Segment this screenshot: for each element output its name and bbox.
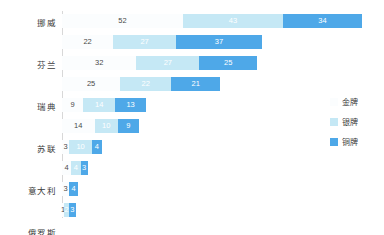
bar-segments: 524334 <box>62 14 362 28</box>
bar-row[interactable]: 瑞典322725 <box>62 56 257 70</box>
bar-segment-silver[interactable]: 27 <box>136 56 199 70</box>
bar-segment-silver[interactable]: 10 <box>69 140 92 154</box>
legend-item[interactable]: 金牌 <box>330 96 384 107</box>
bar-segments: 322725 <box>62 56 257 70</box>
bar-value-label: 3 <box>63 185 67 193</box>
bar-row[interactable]: 芬兰222737 <box>62 35 262 49</box>
bar-value-label: 43 <box>229 17 237 25</box>
bar-segments: 252221 <box>62 77 220 91</box>
medal-count-stacked-bar-chart: 挪威524334芬兰222737瑞典322725苏联252221意大利91413… <box>0 0 384 235</box>
bar-value-label: 9 <box>70 101 74 109</box>
bar-segment-gold[interactable]: 3 <box>62 182 69 196</box>
bar-segment-gold[interactable]: 25 <box>62 77 120 91</box>
chart-legend: 金牌银牌铜牌 <box>330 96 384 156</box>
bar-value-label: 3 <box>63 143 67 151</box>
legend-swatch-icon <box>330 138 338 146</box>
category-label: 苏联 <box>0 142 56 156</box>
bar-segment-silver[interactable]: 4 <box>71 161 80 175</box>
category-label: 挪威 <box>0 16 56 30</box>
bar-segment-bronze[interactable]: 25 <box>199 56 257 70</box>
legend-item[interactable]: 银牌 <box>330 116 384 127</box>
bar-value-label: 4 <box>74 164 78 172</box>
bar-row[interactable]: ROC443 <box>62 161 88 175</box>
bar-segment-bronze[interactable]: 37 <box>176 35 262 49</box>
bar-segments: 91413 <box>62 98 146 112</box>
bar-value-label: 22 <box>142 80 150 88</box>
bar-value-label: 4 <box>95 143 99 151</box>
bar-value-label: 3 <box>82 164 86 172</box>
bar-segments: 14109 <box>62 119 139 133</box>
bar-value-label: 3 <box>70 206 74 214</box>
bar-segment-gold[interactable]: 9 <box>62 98 83 112</box>
bar-value-label: 32 <box>95 59 103 67</box>
bar-row[interactable]: 苏联252221 <box>62 77 220 91</box>
bar-segment-bronze[interactable]: 13 <box>115 98 145 112</box>
bar-row[interactable]: 独联体34 <box>62 182 78 196</box>
bar-value-label: 9 <box>126 122 130 130</box>
bar-segment-bronze[interactable]: 21 <box>171 77 220 91</box>
bar-value-label: 34 <box>318 17 326 25</box>
category-label: 意大利 <box>0 184 56 198</box>
bar-value-label: 27 <box>164 59 172 67</box>
bar-row[interactable]: 挪威524334 <box>62 14 362 28</box>
bar-row[interactable]: 俄罗斯14109 <box>62 119 139 133</box>
bar-segment-silver[interactable]: 22 <box>120 77 171 91</box>
bar-value-label: 14 <box>95 101 103 109</box>
bar-segment-bronze[interactable]: 3 <box>81 161 88 175</box>
bar-value-label: 22 <box>83 38 91 46</box>
legend-swatch-icon <box>330 98 338 106</box>
bar-segment-bronze[interactable]: 4 <box>92 140 101 154</box>
bar-segment-gold[interactable]: 4 <box>62 161 71 175</box>
bar-segment-bronze[interactable]: 4 <box>69 182 78 196</box>
bar-value-label: 21 <box>192 80 200 88</box>
bar-segment-gold[interactable]: 22 <box>62 35 113 49</box>
bar-segment-silver[interactable]: 27 <box>113 35 176 49</box>
bar-row[interactable]: 德国3104 <box>62 140 102 154</box>
bar-segment-bronze[interactable]: 34 <box>283 14 362 28</box>
bar-segment-gold[interactable]: 3 <box>62 140 69 154</box>
bar-value-label: 52 <box>118 17 126 25</box>
bar-value-label: 4 <box>72 185 76 193</box>
bar-segments: 222737 <box>62 35 262 49</box>
bar-segment-silver[interactable]: 14 <box>83 98 116 112</box>
bar-segment-bronze[interactable]: 9 <box>118 119 139 133</box>
bar-value-label: 37 <box>215 38 223 46</box>
bar-segment-silver[interactable]: 10 <box>95 119 118 133</box>
category-label: 俄罗斯 <box>0 226 56 235</box>
bar-segments: 34 <box>62 182 78 196</box>
bar-segments: 3104 <box>62 140 102 154</box>
category-label: 瑞典 <box>0 100 56 114</box>
bar-segment-gold[interactable]: 14 <box>62 119 95 133</box>
bar-row[interactable]: 捷克123 <box>62 203 76 217</box>
category-label: 芬兰 <box>0 58 56 72</box>
bar-value-label: 25 <box>87 80 95 88</box>
legend-label: 银牌 <box>342 116 359 127</box>
bar-value-label: 27 <box>140 38 148 46</box>
legend-label: 铜牌 <box>342 136 359 147</box>
bar-value-label: 10 <box>76 143 84 151</box>
bar-value-label: 4 <box>65 164 69 172</box>
bar-value-label: 25 <box>224 59 232 67</box>
legend-swatch-icon <box>330 118 338 126</box>
bar-segment-bronze[interactable]: 3 <box>69 203 76 217</box>
bar-value-label: 10 <box>102 122 110 130</box>
bar-segments: 123 <box>62 203 76 217</box>
bar-value-label: 13 <box>126 101 134 109</box>
bar-segment-gold[interactable]: 32 <box>62 56 136 70</box>
bar-segment-silver[interactable]: 43 <box>183 14 283 28</box>
legend-label: 金牌 <box>342 96 359 107</box>
plot-area: 挪威524334芬兰222737瑞典322725苏联252221意大利91413… <box>62 12 362 224</box>
legend-item[interactable]: 铜牌 <box>330 136 384 147</box>
bar-value-label: 14 <box>74 122 82 130</box>
bar-segment-gold[interactable]: 52 <box>62 14 183 28</box>
bar-row[interactable]: 意大利91413 <box>62 98 146 112</box>
bar-segments: 443 <box>62 161 88 175</box>
